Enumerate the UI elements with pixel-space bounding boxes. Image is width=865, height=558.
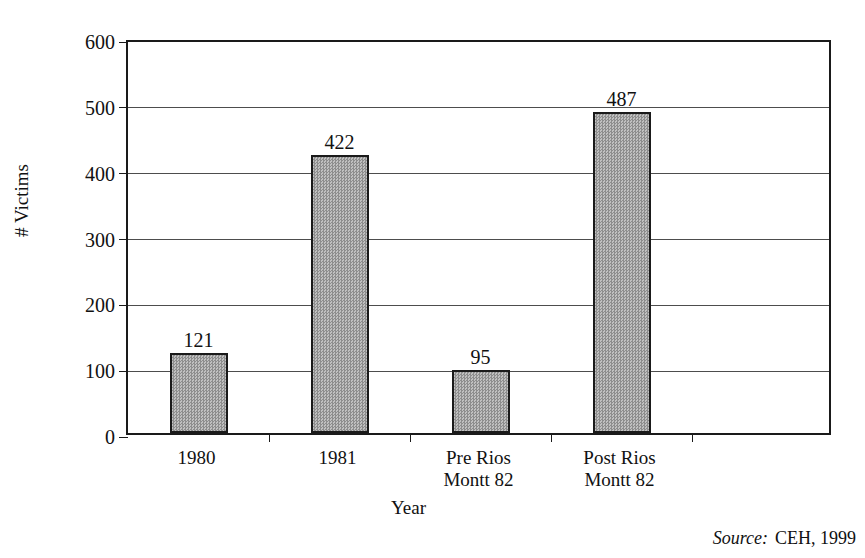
gridline: [128, 305, 829, 306]
y-axis-tick-label: 400: [85, 164, 115, 184]
y-axis-tick-label: 500: [85, 98, 115, 118]
bar[interactable]: 422: [311, 155, 369, 433]
y-axis-title: # Victims: [12, 164, 31, 237]
gridline: [128, 173, 829, 174]
x-axis-category-label: Post Rios Montt 82: [549, 447, 690, 492]
x-axis-tick: [692, 433, 693, 442]
source-value: CEH, 1999: [775, 528, 856, 548]
y-axis-tick: [119, 107, 128, 108]
bar[interactable]: 95: [452, 370, 510, 433]
bar-value-label: 95: [471, 347, 491, 367]
plot-area: 010020030040050060012142295487: [126, 40, 831, 435]
y-axis-tick: [119, 371, 128, 372]
y-axis-tick-label: 200: [85, 295, 115, 315]
y-axis-tick: [119, 42, 128, 43]
y-axis-tick: [119, 239, 128, 240]
bar-chart-figure: # Victims 010020030040050060012142295487…: [0, 0, 865, 558]
x-axis-category-label: Pre Rios Montt 82: [408, 447, 549, 492]
source-label: Source:: [713, 528, 768, 548]
y-axis-tick: [119, 305, 128, 306]
gridline: [128, 107, 829, 108]
source-note: Source:CEH, 1999: [713, 529, 856, 547]
y-axis-tick-label: 100: [85, 361, 115, 381]
x-axis-tick: [269, 433, 270, 442]
y-axis-tick: [119, 437, 128, 438]
x-axis-tick: [410, 433, 411, 442]
y-axis-tick-label: 0: [105, 427, 115, 447]
bar-value-label: 121: [184, 330, 214, 350]
y-axis-tick-label: 600: [85, 32, 115, 52]
y-axis-tick: [119, 173, 128, 174]
bar-value-label: 487: [607, 89, 637, 109]
bar[interactable]: 121: [170, 353, 228, 433]
y-axis-tick-label: 300: [85, 230, 115, 250]
bar-value-label: 422: [325, 132, 355, 152]
x-axis-category-label: 1981: [267, 447, 408, 469]
gridline: [128, 239, 829, 240]
x-axis-tick: [551, 433, 552, 442]
bar[interactable]: 487: [593, 112, 651, 433]
x-axis-category-label: 1980: [126, 447, 267, 469]
x-axis-title-text: Year: [391, 497, 426, 518]
x-axis-title: Year: [0, 498, 865, 517]
